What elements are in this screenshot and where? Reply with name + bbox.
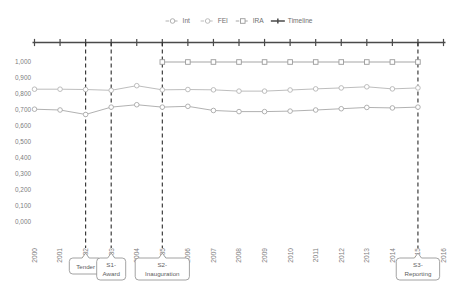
data-point-marker	[262, 89, 267, 94]
series-fei	[32, 83, 420, 93]
data-point-marker	[416, 86, 421, 91]
x-tick-label: 2016	[440, 248, 447, 263]
data-point-marker	[237, 109, 242, 114]
annotation-label-line1: S3-	[413, 261, 423, 268]
legend-marker-swatch	[240, 19, 245, 24]
y-tick-label: 0,800	[15, 90, 31, 97]
chart-canvas: 1,0000,9000,8000,7000,6000,5000,4000,300…	[0, 0, 450, 299]
x-tick-label: 2009	[261, 248, 268, 263]
legend-label: Timeline	[288, 17, 313, 24]
data-point-marker	[109, 105, 114, 110]
x-tick-label: 2001	[56, 248, 63, 263]
data-point-marker	[313, 60, 318, 65]
legend-label: IRA	[253, 17, 265, 24]
data-point-marker	[339, 86, 344, 91]
data-point-marker	[160, 105, 165, 110]
data-point-marker	[109, 88, 114, 93]
data-point-marker	[390, 106, 395, 111]
series-line	[35, 86, 418, 91]
legend-item-fei[interactable]: FEI	[201, 17, 228, 24]
x-tick-label: 2011	[312, 248, 319, 263]
data-point-marker	[262, 60, 267, 65]
legend-label: Int	[183, 17, 190, 24]
x-tick-label: 2013	[363, 248, 370, 263]
x-tick-label: 2012	[338, 248, 345, 263]
y-tick-label: 0,500	[15, 138, 31, 145]
data-point-marker	[32, 107, 37, 112]
y-tick-label: 1,000	[15, 58, 31, 65]
y-tick-label: 0,700	[15, 106, 31, 113]
legend-label: FEI	[218, 17, 228, 24]
series-ira	[160, 60, 420, 65]
y-axis-ticks: 1,0000,9000,8000,7000,6000,5000,4000,300…	[15, 58, 31, 225]
milestone-timeline-chart: 1,0000,9000,8000,7000,6000,5000,4000,300…	[0, 0, 450, 299]
data-point-marker	[288, 109, 293, 114]
annotation-callouts: TenderS1-AwardS2-InaugurationS3-Reportin…	[69, 253, 439, 280]
x-tick-label: 2000	[31, 248, 38, 263]
y-tick-label: 0,900	[15, 74, 31, 81]
x-tick-label: 2014	[389, 248, 396, 263]
y-tick-label: 0,200	[15, 186, 31, 193]
y-tick-label: 0,100	[15, 202, 31, 209]
data-point-marker	[390, 60, 395, 65]
annotation-label-line1: Tender	[76, 263, 95, 270]
data-point-marker	[365, 60, 370, 65]
data-point-marker	[58, 87, 63, 92]
chart-legend: IntFEIIRATimeline	[166, 17, 313, 24]
series-line	[35, 105, 418, 115]
milestone-lines	[86, 43, 418, 249]
data-point-marker	[83, 87, 88, 92]
data-series-group	[32, 60, 420, 117]
data-point-marker	[134, 102, 139, 107]
y-tick-label: 0,300	[15, 170, 31, 177]
y-tick-label: 0,000	[15, 218, 31, 225]
y-tick-label: 0,400	[15, 154, 31, 161]
data-point-marker	[83, 112, 88, 117]
legend-marker-swatch	[170, 19, 175, 24]
data-point-marker	[288, 60, 293, 65]
data-point-marker	[288, 88, 293, 93]
data-point-marker	[186, 87, 191, 92]
annotation-label-line2: Reporting	[405, 270, 432, 277]
data-point-marker	[262, 109, 267, 114]
data-point-marker	[211, 88, 216, 93]
data-point-marker	[339, 106, 344, 111]
legend-item-int[interactable]: Int	[166, 17, 190, 24]
data-point-marker	[237, 60, 242, 65]
data-point-marker	[313, 108, 318, 113]
data-point-marker	[186, 60, 191, 65]
annotation-label-line1: S2-	[157, 261, 167, 268]
data-point-marker	[313, 87, 318, 92]
data-point-marker	[237, 89, 242, 94]
timeline-axis	[33, 39, 446, 46]
data-point-marker	[134, 83, 139, 88]
legend-item-ira[interactable]: IRA	[236, 17, 265, 24]
data-point-marker	[211, 108, 216, 113]
data-point-marker	[32, 87, 37, 92]
data-point-marker	[416, 60, 421, 65]
annotation-label-line2: Award	[102, 270, 120, 277]
data-point-marker	[58, 108, 63, 113]
y-tick-label: 0,600	[15, 122, 31, 129]
series-int	[32, 102, 420, 116]
legend-item-timeline[interactable]: Timeline	[271, 17, 313, 24]
annotation-label-line2: Inauguration	[145, 270, 180, 277]
data-point-marker	[416, 105, 421, 110]
data-point-marker	[211, 60, 216, 65]
legend-marker-swatch	[205, 19, 210, 24]
data-point-marker	[186, 104, 191, 109]
data-point-marker	[160, 88, 165, 93]
x-tick-label: 2007	[210, 248, 217, 263]
x-tick-label: 2008	[235, 248, 242, 263]
data-point-marker	[390, 87, 395, 92]
data-point-marker	[365, 85, 370, 90]
data-point-marker	[339, 60, 344, 65]
data-point-marker	[160, 60, 165, 65]
x-tick-label: 2010	[287, 248, 294, 263]
data-point-marker	[365, 105, 370, 110]
annotation-label-line1: S1-	[106, 261, 116, 268]
